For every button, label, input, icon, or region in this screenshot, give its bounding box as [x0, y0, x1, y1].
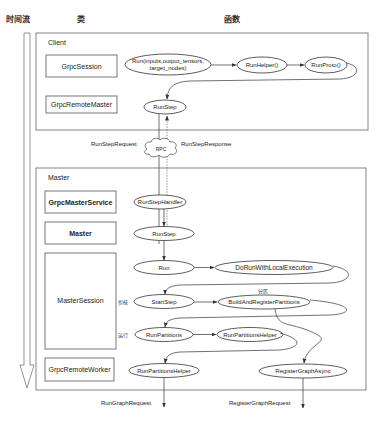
timeline-arrow-icon [20, 33, 34, 388]
fn-run-partitions-label: RunPartitions [146, 332, 182, 338]
fn-do-run-with-local-execution-label: DoRunWithLocalExecution [235, 264, 313, 271]
master-group-label: Master [48, 174, 70, 181]
annotation-partition: 分区 [258, 288, 268, 295]
annotation-prune: 剪枝 [118, 299, 128, 306]
client-group-label: Client [48, 39, 66, 46]
fn-client-run-step-label: RunStep [153, 104, 177, 110]
rpc-label: RPC [156, 146, 167, 152]
class-column-header: 类 [77, 14, 85, 24]
rpc-response-label: RunStepResponse [181, 141, 232, 147]
fn-master-run-step-label: RunStep [152, 231, 176, 237]
fn-worker-run-partitions-helper-label: RunPartitionsHelper [137, 368, 191, 374]
class-master-session-label: MasterSession [57, 297, 103, 304]
fn-build-and-register-partitions-label: BuildAndRegisterPartitions [228, 299, 299, 305]
client-group [36, 33, 368, 130]
fn-run-label: Run [158, 265, 169, 271]
fn-run-proto-label: RunProto() [311, 62, 340, 68]
timeline-header: 时间流 [6, 14, 30, 24]
fn-run-helper-label: RunHelper() [246, 62, 279, 68]
class-grpc-remote-master-label: GrpcRemoteMaster [51, 101, 113, 109]
fn-register-graph-async-label: RegisterGraphAsync [275, 368, 330, 374]
class-master-label: Master [69, 230, 92, 237]
rpc-request-label: RunStepRequest [91, 141, 137, 147]
fn-client-run-label-1: Run(inputs,output_tensors, [132, 58, 204, 64]
class-grpc-session-label: GrpcSession [61, 63, 101, 71]
fn-run-step-handler-label: RunStepHandler [138, 199, 182, 205]
function-column-header: 函数 [224, 14, 241, 24]
fn-start-step-label: StartStep [151, 299, 177, 305]
class-grpc-master-service-label: GrpcMasterService [49, 199, 113, 207]
call-flow-diagram: 时间流 类 函数 Client GrpcSession GrpcRemoteMa… [0, 0, 384, 425]
fn-client-run-label-2: target_nodes) [149, 65, 186, 71]
run-graph-request-label: RunGraphRequest [101, 400, 151, 406]
fn-run-partitions-helper-label: RunPartitionsHelper [223, 332, 277, 338]
class-grpc-remote-worker-label: GrpcRemoteWorker [48, 366, 111, 374]
annotation-run: 运行 [118, 332, 128, 339]
register-graph-request-label: RegisterGraphRequest [229, 400, 291, 406]
